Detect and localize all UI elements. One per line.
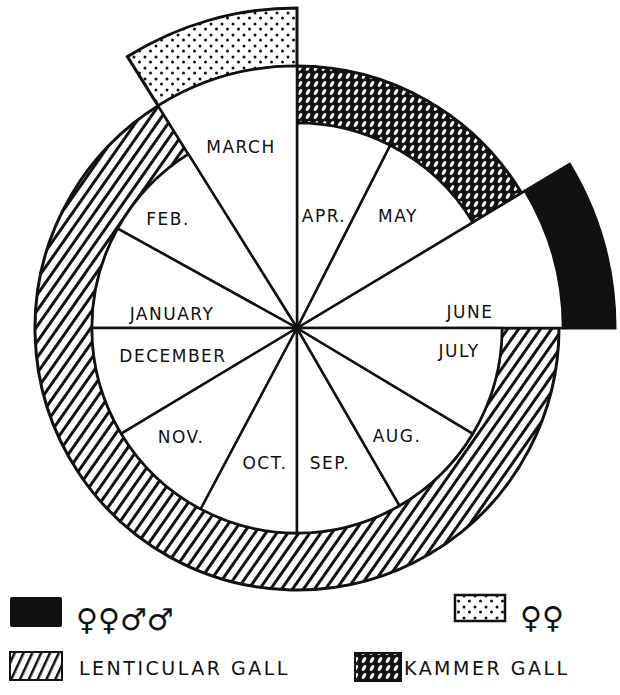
- legend-swatch-stipple: [455, 595, 505, 621]
- month-label-december: DECEMBER: [119, 346, 226, 366]
- legend-swatch-solid-black: [10, 597, 62, 627]
- month-label-may: MAY: [378, 206, 418, 226]
- month-label-sep: SEP.: [310, 453, 351, 473]
- month-label-january: JANUARY: [129, 304, 215, 324]
- legend-kammer-gall: KAMMER GALL: [355, 653, 570, 681]
- month-label-oct: OCT.: [242, 453, 287, 473]
- center-point: [294, 325, 300, 331]
- month-label-july: JULY: [437, 341, 479, 361]
- month-label-march: MARCH: [206, 137, 275, 157]
- legend-lenticular-gall: LENTICULAR GALL: [10, 652, 290, 680]
- legend-swatch-diagonal-hatch: [10, 652, 62, 680]
- gall-generation-calendar-diagram: JUNEMAYAPR.MARCHFEB.JANUARYDECEMBERNOV.O…: [0, 0, 620, 695]
- legend-label-lenticular-gall: LENTICULAR GALL: [79, 657, 290, 679]
- legend-swatch-cross-hatch: [355, 653, 401, 681]
- legend-stipple: ♀♀: [455, 595, 564, 635]
- female-female-male-male-symbols: ♀♀♂♂: [76, 602, 174, 637]
- month-label-nov: NOV.: [158, 427, 205, 447]
- legend-solid-black: ♀♀♂♂: [10, 597, 174, 637]
- legend-label-kammer-gall: KAMMER GALL: [404, 657, 570, 679]
- female-female-symbols: ♀♀: [520, 600, 564, 635]
- month-label-june: JUNE: [446, 302, 494, 322]
- month-label-aug: AUG.: [373, 426, 422, 446]
- month-label-feb: FEB.: [146, 209, 190, 229]
- month-label-apr: APR.: [302, 206, 347, 226]
